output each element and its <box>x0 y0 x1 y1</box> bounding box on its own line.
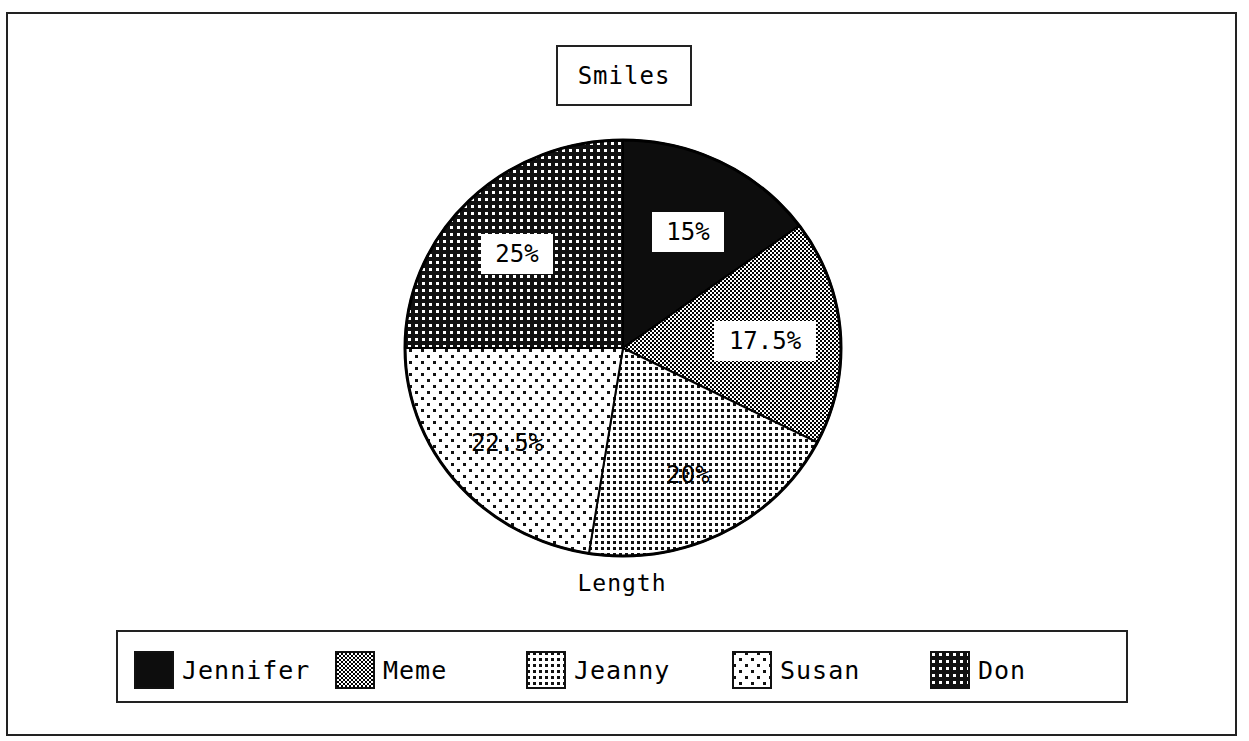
legend-label: Jennifer <box>182 656 310 685</box>
legend-label: Meme <box>383 656 447 685</box>
legend-swatch-don <box>930 651 970 689</box>
legend-label: Don <box>978 656 1026 685</box>
legend-item-jeanny: Jeanny <box>526 650 670 690</box>
legend-swatch-susan <box>732 651 772 689</box>
slice-label-jennifer: 15% <box>652 212 724 252</box>
legend: Jennifer Meme Jeanny Susan Don <box>116 630 1128 703</box>
slice-label-don: 25% <box>481 234 553 274</box>
x-axis-label: Length <box>560 570 684 596</box>
legend-item-meme: Meme <box>335 650 447 690</box>
legend-swatch-jennifer <box>134 651 174 689</box>
legend-label: Jeanny <box>574 656 670 685</box>
legend-item-don: Don <box>930 650 1026 690</box>
legend-item-susan: Susan <box>732 650 860 690</box>
legend-swatch-meme <box>335 651 375 689</box>
legend-label: Susan <box>780 656 860 685</box>
legend-swatch-jeanny <box>526 651 566 689</box>
slice-label-jeanny: 20% <box>655 456 721 494</box>
slice-label-meme: 17.5% <box>714 321 816 361</box>
slice-label-susan: 22.5% <box>458 424 556 462</box>
legend-item-jennifer: Jennifer <box>134 650 310 690</box>
